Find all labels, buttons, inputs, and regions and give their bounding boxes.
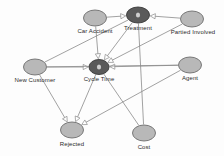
graph-node-cycle_time[interactable] — [89, 60, 109, 75]
edge-arrowhead-icon — [121, 14, 126, 19]
graph-node-treatment[interactable] — [127, 7, 150, 23]
node-ellipse[interactable] — [179, 57, 202, 73]
edge-arrowhead-icon — [83, 64, 88, 69]
graph-edge — [45, 20, 128, 62]
node-ellipse[interactable] — [61, 122, 84, 138]
node-label-cycle_time: Cycle Time — [84, 76, 115, 83]
graph-edge — [138, 23, 143, 124]
graph-node-partied_involved[interactable] — [181, 11, 204, 27]
intervention-marker-icon — [97, 64, 101, 69]
graph-edge — [154, 16, 180, 18]
intervention-marker-icon — [136, 12, 140, 17]
node-label-new_customer: New Customer — [15, 77, 56, 84]
edge-arrowhead-icon — [110, 64, 115, 69]
node-ellipse[interactable] — [133, 125, 156, 141]
node-label-car_accident: Car Accident — [77, 28, 112, 35]
node-label-cost: Cost — [138, 144, 151, 151]
node-ellipse[interactable] — [181, 11, 204, 27]
graph-node-new_customer[interactable] — [24, 59, 47, 75]
edge-arrowhead-icon — [75, 116, 80, 122]
edge-arrowhead-icon — [62, 116, 67, 122]
causal-graph-canvas: Car AccidentTreatmentPartied InvolvedNew… — [0, 0, 224, 156]
node-label-treatment: Treatment — [124, 25, 152, 32]
node-ellipse[interactable] — [84, 10, 107, 26]
graph-node-car_accident[interactable] — [84, 10, 107, 26]
edge-arrowhead-icon — [108, 58, 114, 63]
node-label-partied_involved: Partied Involved — [171, 29, 216, 36]
edge-arrowhead-icon — [104, 54, 109, 60]
graph-node-agent[interactable] — [179, 57, 202, 73]
graph-node-rejected[interactable] — [61, 122, 84, 138]
node-ellipse[interactable] — [24, 59, 47, 75]
graph-node-cost[interactable] — [133, 125, 156, 141]
edge-arrowhead-icon — [150, 14, 155, 19]
edge-arrowhead-icon — [95, 54, 100, 59]
node-label-rejected: Rejected — [60, 141, 84, 148]
node-label-agent: Agent — [182, 75, 198, 82]
edge-arrowhead-icon — [82, 120, 88, 125]
graph-edge — [107, 16, 122, 17]
